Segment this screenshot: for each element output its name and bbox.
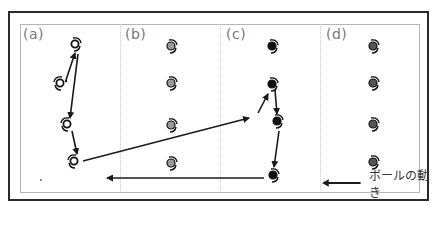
- left-arrow-icon: [322, 177, 363, 189]
- player-marker-d: [369, 40, 379, 53]
- player-marker-b: [167, 77, 177, 90]
- player-marker-b: [167, 119, 177, 132]
- player-marker-a: [54, 77, 64, 90]
- player-marker-c: [273, 115, 283, 128]
- ball-pass-arrow: [258, 94, 268, 113]
- ball-pass-arrow: [274, 131, 279, 167]
- player-marker-d: [369, 118, 379, 131]
- ball-pass-arrow: [275, 90, 277, 114]
- player-marker-b: [167, 40, 177, 53]
- player-marker-b: [167, 157, 177, 170]
- player-marker-c: [269, 169, 279, 182]
- ball-pass-arrow: [72, 131, 77, 154]
- player-marker-a: [61, 118, 71, 131]
- player-markers: [54, 38, 379, 182]
- player-marker-c: [268, 40, 278, 53]
- ball-pass-arrow: [66, 53, 75, 80]
- ball-pass-arrow: [83, 118, 249, 161]
- player-marker-c: [268, 78, 278, 91]
- player-marker-a: [71, 38, 81, 51]
- player-marker-d: [369, 77, 379, 90]
- stray-mark: [40, 179, 42, 181]
- legend: ボールの動き: [322, 175, 438, 191]
- ball-dot: [65, 80, 67, 82]
- legend-label: ボールの動き: [369, 166, 438, 200]
- player-marker-a: [68, 155, 78, 168]
